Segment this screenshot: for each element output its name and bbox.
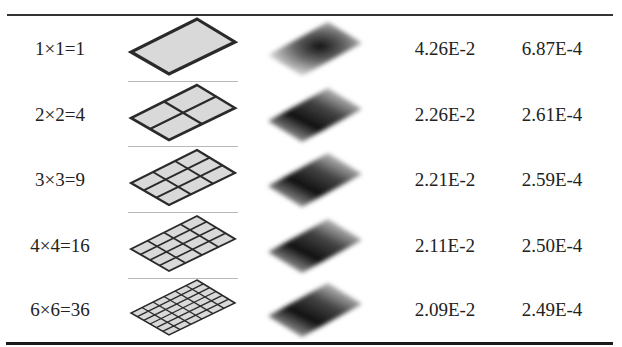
value-2: 2.49E-4 xyxy=(500,277,604,343)
mesh-division-label: 4×4=16 xyxy=(0,213,120,279)
field-distribution-image xyxy=(262,82,378,148)
mesh-division-label: 1×1=1 xyxy=(0,16,120,82)
value-1: 2.11E-2 xyxy=(390,213,500,279)
mesh-division-label: 6×6=36 xyxy=(0,277,120,343)
value-1: 2.09E-2 xyxy=(390,277,500,343)
value-1: 2.21E-2 xyxy=(390,147,500,213)
value-2: 2.59E-4 xyxy=(500,147,604,213)
table-row: 1×1=1 4.26E-2 6.87E-4 xyxy=(0,16,622,82)
table-row: 4×4=16 2.11E-2 2.50E-4 xyxy=(0,213,622,279)
table-row: 6×6=36 2.09E-2 2.49E-4 xyxy=(0,277,622,343)
mesh-4x4-icon xyxy=(126,213,242,279)
mesh-2x2-icon xyxy=(126,82,242,148)
table-bottom-rule xyxy=(6,342,613,345)
table-row: 2×2=4 2.26E-2 2.61E-4 xyxy=(0,82,622,148)
value-2: 2.50E-4 xyxy=(500,213,604,279)
value-2: 2.61E-4 xyxy=(500,82,604,148)
value-1: 2.26E-2 xyxy=(390,82,500,148)
field-distribution-image xyxy=(262,277,378,343)
mesh-3x3-icon xyxy=(126,147,242,213)
value-1: 4.26E-2 xyxy=(390,16,500,82)
mesh-division-label: 3×3=9 xyxy=(0,147,120,213)
value-2: 6.87E-4 xyxy=(500,16,604,82)
field-distribution-image xyxy=(262,147,378,213)
mesh-6x6-icon xyxy=(126,277,242,343)
table-row: 3×3=9 2.21E-2 2.59E-4 xyxy=(0,147,622,213)
mesh-division-label: 2×2=4 xyxy=(0,82,120,148)
mesh-1x1-icon xyxy=(126,16,242,82)
field-distribution-image xyxy=(262,213,378,279)
field-distribution-image xyxy=(262,16,378,82)
